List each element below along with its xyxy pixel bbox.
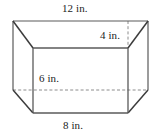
dimension-label-depth: 4 in. bbox=[100, 29, 120, 41]
dimension-label-bottom: 8 in. bbox=[63, 119, 83, 131]
dimension-label-top: 12 in. bbox=[62, 2, 88, 14]
prism-drawing bbox=[0, 0, 160, 137]
geometry-figure: 12 in. 4 in. 6 in. 8 in. bbox=[0, 0, 160, 137]
dimension-label-height: 6 in. bbox=[39, 72, 59, 84]
